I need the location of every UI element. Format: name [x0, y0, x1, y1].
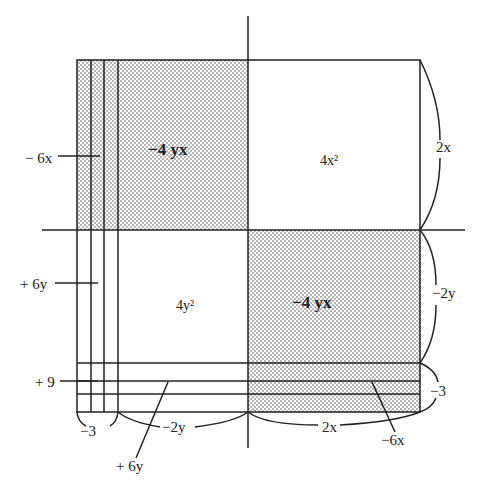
region-label-bottom-right: −4 yx [292, 293, 332, 312]
pointer-label-bottom-left: + 6y [116, 458, 144, 474]
side-label-right-top: 2x [436, 139, 452, 155]
side-label-right-middle: −2y [432, 285, 456, 301]
side-label-right-bottom: −3 [430, 383, 446, 399]
area-model-diagram: −4 yx 4x² 4y² −4 yx 2x −2y −3 −3 −2y 2x … [0, 0, 477, 492]
region-label-top-left: −4 yx [148, 140, 188, 159]
side-label-bottom-right: 2x [322, 419, 338, 435]
region-label-bottom-left: 4y² [176, 298, 194, 313]
pointer-label-bottom-right: −6x [381, 432, 405, 448]
pointer-label-left-bottom: + 9 [35, 374, 55, 390]
side-label-bottom-left: −3 [80, 423, 96, 439]
region-label-top-right: 4x² [320, 153, 338, 168]
pointer-label-left-middle: + 6y [20, 276, 48, 292]
pointer-label-left-top: − 6x [25, 150, 53, 166]
side-label-bottom-middle: −2y [162, 419, 186, 435]
shaded-region-bottom-right [248, 230, 420, 412]
